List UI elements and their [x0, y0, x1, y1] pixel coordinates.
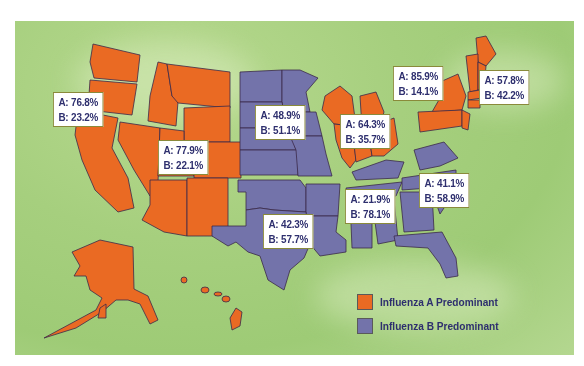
influenza-a-percent: A: 76.8%	[58, 95, 98, 110]
influenza-a-percent: A: 85.9%	[398, 69, 438, 84]
region-label-south-atlantic: A: 41.1% B: 58.9%	[419, 173, 470, 208]
legend-label: Influenza B Predominant	[380, 320, 499, 332]
region-label-west-south-central: A: 42.3% B: 57.7%	[263, 214, 314, 249]
legend: Influenza A Predominant Influenza B Pred…	[357, 292, 515, 340]
region-label-west-north-central: A: 48.9% B: 51.1%	[255, 105, 306, 140]
influenza-b-percent: B: 22.1%	[163, 158, 203, 173]
influenza-a-percent: A: 64.3%	[345, 117, 385, 132]
influenza-a-percent: A: 57.8%	[484, 73, 524, 88]
region-label-east-south-central: A: 21.9% B: 78.1%	[345, 189, 396, 224]
legend-label: Influenza A Predominant	[380, 296, 498, 308]
region-label-east-north-central: A: 64.3% B: 35.7%	[340, 114, 391, 149]
region-label-mountain: A: 77.9% B: 22.1%	[158, 140, 209, 175]
influenza-a-percent: A: 41.1%	[424, 176, 464, 191]
influenza-b-percent: B: 35.7%	[345, 132, 385, 147]
influenza-b-percent: B: 23.2%	[58, 110, 98, 125]
influenza-a-percent: A: 77.9%	[163, 143, 203, 158]
influenza-a-swatch	[357, 294, 373, 310]
legend-item-influenza-a: Influenza A Predominant	[357, 292, 515, 312]
influenza-a-percent: A: 21.9%	[350, 192, 390, 207]
influenza-b-percent: B: 57.7%	[268, 232, 308, 247]
influenza-b-percent: B: 42.2%	[484, 88, 524, 103]
influenza-b-percent: B: 14.1%	[398, 84, 438, 99]
influenza-b-percent: B: 78.1%	[350, 207, 390, 222]
legend-item-influenza-b: Influenza B Predominant	[357, 316, 515, 336]
region-label-pacific: A: 76.8% B: 23.2%	[53, 92, 104, 127]
influenza-b-swatch	[357, 318, 373, 334]
influenza-a-percent: A: 42.3%	[268, 217, 308, 232]
region-hawaii[interactable]	[181, 277, 242, 330]
influenza-b-percent: B: 58.9%	[424, 191, 464, 206]
map-panel: A: 76.8% B: 23.2% A: 77.9% B: 22.1% A: 4…	[15, 21, 574, 355]
region-alaska[interactable]	[44, 240, 158, 338]
region-label-new-england: A: 57.8% B: 42.2%	[479, 70, 530, 105]
influenza-a-percent: A: 48.9%	[260, 108, 300, 123]
region-label-mid-atlantic: A: 85.9% B: 14.1%	[393, 66, 444, 101]
influenza-b-percent: B: 51.1%	[260, 123, 300, 138]
